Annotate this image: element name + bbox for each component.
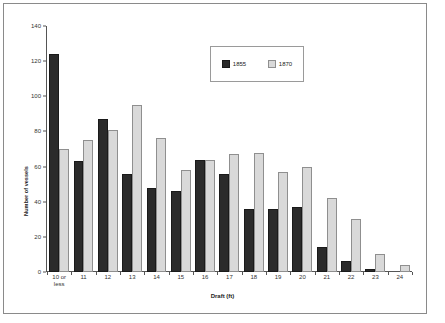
x-axis-tick-mark [144, 272, 145, 275]
bar-group [71, 26, 95, 272]
bar-1855-11 [74, 161, 84, 272]
legend-label-1855: 1855 [233, 61, 246, 67]
bar-1855-21 [317, 247, 327, 272]
bar-group [315, 26, 339, 272]
bar-1870-19 [278, 172, 288, 272]
legend-item-1870: 1870 [268, 60, 292, 68]
x-axis-tick-mark [120, 272, 121, 275]
x-axis-title: Draft (ft) [0, 293, 445, 299]
x-axis-tick-mark [242, 272, 243, 275]
bar-1870-16 [205, 160, 215, 272]
bar-1855-20 [292, 207, 302, 272]
bar-group [388, 26, 412, 272]
bar-group [144, 26, 168, 272]
bar-1870-11 [83, 140, 93, 272]
legend-swatch-icon-1870 [268, 60, 276, 68]
bar-1870-13 [132, 105, 142, 272]
bar-1870-15 [181, 170, 191, 272]
x-axis-tick-mark [412, 272, 413, 275]
x-axis-tick-mark [290, 272, 291, 275]
bar-1855-12 [98, 119, 108, 272]
y-axis-tick-label: 120 [31, 58, 41, 64]
y-axis-tick-label: 20 [34, 234, 41, 240]
bar-chart: 020406080100120140 Number of vessels 10 … [0, 0, 445, 323]
x-axis-tick-mark [266, 272, 267, 275]
x-axis-tick-mark [315, 272, 316, 275]
legend-swatch-icon-1855 [222, 60, 230, 68]
x-axis-tick-mark [193, 272, 194, 275]
bar-1855-19 [268, 209, 278, 272]
bar-1870-18 [254, 153, 264, 272]
y-axis-title-wrapper: Number of vessels [10, 80, 24, 180]
x-axis-tick-mark [71, 272, 72, 275]
bar-group [96, 26, 120, 272]
bar-1870-20 [302, 167, 312, 272]
x-axis-tick-mark [47, 272, 48, 275]
x-axis-tick-mark [96, 272, 97, 275]
legend-item-1855: 1855 [222, 60, 246, 68]
bar-group [120, 26, 144, 272]
y-axis-tick-label: 100 [31, 93, 41, 99]
x-axis-tick-mark [339, 272, 340, 275]
bar-1870-14 [156, 138, 166, 272]
bar-1870-21 [327, 198, 337, 272]
x-axis-tick-mark [388, 272, 389, 275]
bar-1870-17 [229, 154, 239, 272]
y-axis-title: Number of vessels [23, 131, 29, 251]
bar-1870-24 [400, 265, 410, 272]
bar-group [339, 26, 363, 272]
bar-group [47, 26, 71, 272]
bar-1855-18 [244, 209, 254, 272]
y-axis-tick-label: 60 [34, 164, 41, 170]
bar-1855-13 [122, 174, 132, 272]
x-axis-tick-mark [363, 272, 364, 275]
bar-1855-22 [341, 261, 351, 272]
bar-1855-23 [365, 269, 375, 273]
y-axis-tick-label: 0 [38, 269, 41, 275]
bar-1855-16 [195, 160, 205, 272]
bar-1855-15 [171, 191, 181, 272]
bar-1855-14 [147, 188, 157, 272]
legend-label-1870: 1870 [279, 61, 292, 67]
bar-1870-10-or-less [59, 149, 69, 272]
bar-1870-22 [351, 219, 361, 272]
y-axis-tick-label: 40 [34, 199, 41, 205]
bar-1855-10-or-less [49, 54, 59, 272]
bar-group [169, 26, 193, 272]
bar-1855-17 [219, 174, 229, 272]
y-axis-tick-label: 80 [34, 128, 41, 134]
y-axis-tick-label: 140 [31, 23, 41, 29]
x-axis-tick-mark [217, 272, 218, 275]
chart-legend: 1855 1870 [210, 46, 304, 82]
bar-1870-23 [375, 254, 385, 272]
bar-1870-12 [108, 130, 118, 272]
bar-group [363, 26, 387, 272]
x-axis-tick-mark [169, 272, 170, 275]
